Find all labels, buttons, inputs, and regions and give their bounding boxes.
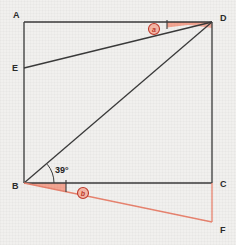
angle-marker-b-label: b: [81, 190, 86, 197]
segment-ED: [24, 22, 212, 68]
angle-arc-39: [47, 164, 54, 183]
angle-label-39: 39°: [55, 165, 69, 175]
geometry-figure: a b 39° A B C D E F: [0, 0, 236, 245]
diagram-canvas: a b 39° A B C D E F: [0, 0, 236, 245]
vertex-label-D: D: [220, 13, 227, 23]
diagonal-BD: [24, 22, 212, 183]
vertex-label-C: C: [220, 179, 227, 189]
vertex-label-E: E: [12, 63, 18, 73]
segment-BF: [24, 183, 212, 222]
vertex-label-F: F: [220, 225, 226, 235]
angle-marker-a-label: a: [152, 26, 156, 33]
vertex-label-A: A: [13, 10, 20, 20]
vertex-label-B: B: [12, 181, 19, 191]
